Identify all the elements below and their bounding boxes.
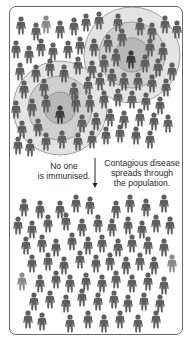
person-icon: [137, 220, 146, 238]
person-icon: [23, 310, 32, 328]
person-icon: [83, 236, 92, 254]
person-icon: [24, 45, 33, 63]
person-icon: [155, 294, 164, 312]
caption-no-one-immunised: No one is immunised.: [33, 161, 95, 181]
person-icon: [51, 238, 60, 256]
person-icon: [135, 252, 144, 270]
person-icon: [121, 256, 130, 274]
person-icon: [59, 256, 68, 274]
person-icon: [115, 310, 124, 328]
person-icon: [101, 126, 110, 144]
person-icon: [97, 274, 106, 292]
person-icon: [123, 216, 132, 234]
person-icon: [77, 218, 86, 236]
person-icon: [159, 276, 168, 294]
person-icon: [48, 42, 57, 60]
person-icon: [37, 234, 46, 252]
person-icon: [155, 96, 164, 114]
caption-disease-spreads: Contagious disease spreads through the p…: [98, 158, 186, 188]
person-icon: [27, 254, 36, 272]
person-icon: [163, 114, 172, 132]
caption-line: the population.: [98, 178, 186, 188]
person-icon: [165, 216, 174, 234]
person-icon: [75, 250, 84, 268]
person-icon: [67, 232, 76, 250]
person-icon: [167, 254, 176, 272]
person-icon: [93, 292, 102, 310]
person-icon: [43, 252, 52, 270]
person-icon: [36, 38, 45, 56]
person-icon: [111, 200, 120, 218]
person-icon: [29, 292, 38, 310]
person-icon: [139, 292, 148, 310]
person-icon: [149, 112, 158, 130]
person-icon: [97, 234, 106, 252]
person-icon: [143, 272, 152, 290]
crowd-bottom: [13, 194, 176, 332]
person-icon: [71, 194, 80, 212]
person-icon: [125, 194, 134, 212]
person-icon: [99, 314, 108, 332]
person-icon: [15, 62, 24, 80]
person-icon: [81, 272, 90, 290]
caption-line: spreads through: [98, 168, 186, 178]
person-icon: [65, 314, 74, 332]
person-icon: [141, 198, 150, 216]
person-icon: [151, 214, 160, 232]
person-icon: [55, 200, 64, 218]
person-icon: [43, 214, 52, 232]
person-icon: [61, 212, 70, 230]
person-icon: [41, 15, 50, 33]
person-icon: [145, 130, 154, 148]
caption-line: is immunised.: [33, 171, 95, 181]
person-icon: [111, 270, 120, 288]
person-icon: [105, 252, 114, 270]
person-icon: [83, 310, 92, 328]
person-icon: [63, 40, 72, 58]
person-icon: [37, 312, 46, 330]
person-icon: [135, 108, 144, 126]
person-icon: [109, 290, 118, 308]
person-icon: [16, 16, 25, 34]
person-icon: [45, 290, 54, 308]
person-icon: [91, 254, 100, 272]
person-icon: [11, 40, 20, 58]
person-icon: [131, 126, 140, 144]
person-icon: [81, 13, 90, 31]
person-icon: [85, 196, 94, 214]
person-icon: [31, 22, 40, 40]
person-icon: [77, 288, 86, 306]
person-icon: [143, 236, 152, 254]
person-icon: [159, 194, 168, 212]
person-icon: [17, 272, 26, 290]
person-icon: [113, 238, 122, 256]
person-icon: [51, 270, 60, 288]
person-icon: [13, 136, 22, 154]
person-icon: [69, 17, 78, 35]
person-icon: [127, 274, 136, 292]
person-icon: [13, 216, 22, 234]
person-icon: [35, 274, 44, 292]
person-icon: [151, 310, 160, 328]
person-icon: [107, 218, 116, 236]
person-icon: [27, 220, 36, 238]
person-icon: [133, 314, 142, 332]
person-icon: [75, 36, 84, 54]
person-icon: [65, 274, 74, 292]
person-icon: [115, 124, 124, 142]
person-icon: [55, 20, 64, 38]
caption-line: Contagious disease: [98, 158, 186, 168]
person-icon: [93, 214, 102, 232]
person-icon: [61, 294, 70, 312]
person-icon: [19, 198, 28, 216]
caption-line: No one: [33, 161, 95, 171]
person-icon: [159, 238, 168, 256]
person-icon: [21, 236, 30, 254]
person-icon: [127, 234, 136, 252]
person-icon: [35, 200, 44, 218]
person-icon: [149, 256, 158, 274]
person-icon: [123, 294, 132, 312]
